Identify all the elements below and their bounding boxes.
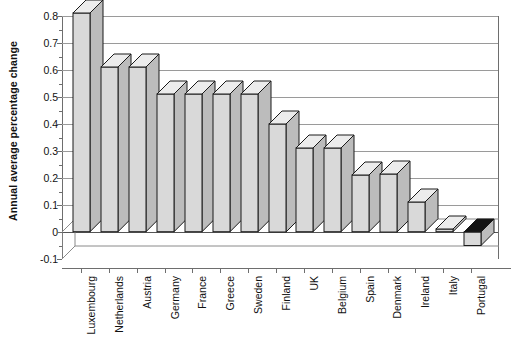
x-axis-label: France <box>195 276 209 346</box>
y-tick-mark-minor <box>59 111 62 112</box>
y-tick-mark-minor <box>59 138 62 139</box>
x-axis-label: Italy <box>446 276 460 346</box>
x-axis-label: Portugal <box>474 276 488 346</box>
y-tick-mark-minor <box>59 219 62 220</box>
y-tick-label: 0.2 <box>24 173 58 183</box>
x-axis-label-text: Austria <box>141 276 152 309</box>
x-axis-label-text: Germany <box>169 276 180 319</box>
bar <box>129 54 146 232</box>
y-tick-mark <box>57 70 62 71</box>
bar <box>464 219 481 246</box>
x-axis-label: Spain <box>363 276 377 346</box>
x-tick-mark <box>443 268 444 273</box>
x-axis-label: Greece <box>223 276 237 346</box>
x-axis-label-text: Belgium <box>336 276 347 314</box>
x-tick-mark <box>165 268 166 273</box>
x-axis-label-text: France <box>197 276 208 309</box>
x-tick-mark <box>388 268 389 273</box>
x-axis-label: Luxembourg <box>84 276 98 346</box>
x-tick-mark <box>332 268 333 273</box>
y-tick-mark <box>57 151 62 152</box>
x-axis-label: Finland <box>279 276 293 346</box>
x-tick-mark <box>304 268 305 273</box>
x-tick-mark <box>471 268 472 273</box>
y-tick-label: 0.5 <box>24 92 58 102</box>
x-axis-label-text: Portugal <box>476 276 487 315</box>
x-tick-mark <box>360 268 361 273</box>
y-axis-title-text: Annual average percentage change <box>7 41 19 221</box>
x-axis-label: Denmark <box>390 276 404 346</box>
bar <box>73 0 90 232</box>
x-axis-label-text: UK <box>308 276 319 291</box>
y-tick-mark <box>57 97 62 98</box>
y-tick-mark-minor <box>59 84 62 85</box>
y-tick-label: 0.7 <box>24 38 58 48</box>
bar-series <box>62 16 499 259</box>
y-tick-label: 0.8 <box>24 11 58 21</box>
y-tick-mark-minor <box>59 165 62 166</box>
bar <box>296 135 313 232</box>
y-tick-mark <box>57 259 62 260</box>
y-tick-mark <box>57 43 62 44</box>
y-tick-label: 0.4 <box>24 119 58 129</box>
x-axis-label: UK <box>307 276 321 346</box>
x-tick-mark <box>415 268 416 273</box>
y-tick-mark <box>57 205 62 206</box>
x-axis-label-text: Denmark <box>392 276 403 319</box>
y-tick-label: 0 <box>24 227 58 237</box>
x-axis-label: Netherlands <box>112 276 126 346</box>
x-axis-label-text: Finland <box>281 276 292 310</box>
y-tick-mark-minor <box>59 246 62 247</box>
y-tick-mark <box>57 16 62 17</box>
y-tick-mark <box>57 124 62 125</box>
x-tick-mark <box>81 268 82 273</box>
x-tick-mark <box>192 268 193 273</box>
bar <box>213 81 230 232</box>
x-axis-label-text: Ireland <box>420 276 431 308</box>
x-tick-mark <box>220 268 221 273</box>
y-axis-tick-labels: 0.80.70.60.50.40.30.20.10-0.1 <box>20 0 58 349</box>
x-axis-label: Sweden <box>251 276 265 346</box>
y-tick-mark <box>57 232 62 233</box>
bar-chart: Annual average percentage change 0.80.70… <box>0 0 511 349</box>
bar <box>436 216 453 232</box>
y-tick-mark-minor <box>59 30 62 31</box>
bar <box>324 135 341 232</box>
y-tick-label: 0.1 <box>24 200 58 210</box>
x-axis-label: Ireland <box>418 276 432 346</box>
x-tick-mark <box>248 268 249 273</box>
bar <box>269 111 286 232</box>
y-tick-mark-minor <box>59 57 62 58</box>
x-axis-label-text: Greece <box>225 276 236 310</box>
y-tick-label: -0.1 <box>24 254 58 264</box>
bar <box>352 162 369 232</box>
x-axis-label-text: Italy <box>448 276 459 295</box>
bar <box>157 81 174 232</box>
y-tick-label: 0.6 <box>24 65 58 75</box>
y-tick-label: 0.3 <box>24 146 58 156</box>
x-axis-label-text: Netherlands <box>113 276 124 333</box>
y-tick-mark <box>57 178 62 179</box>
x-axis-label: Belgium <box>335 276 349 346</box>
bar <box>185 81 202 232</box>
x-axis-label-text: Sweden <box>253 276 264 314</box>
x-axis-label-text: Spain <box>364 276 375 303</box>
bar <box>241 81 258 232</box>
x-tick-mark <box>109 268 110 273</box>
x-tick-mark <box>276 268 277 273</box>
x-axis-label: Germany <box>168 276 182 346</box>
plot-area <box>62 16 499 259</box>
x-axis-label: Austria <box>140 276 154 346</box>
bar-side-face <box>464 219 496 248</box>
bar <box>408 189 425 232</box>
bar <box>380 161 397 232</box>
y-tick-mark-minor <box>59 192 62 193</box>
x-axis-label-text: Luxembourg <box>85 276 96 334</box>
bar <box>101 54 118 232</box>
x-tick-mark <box>137 268 138 273</box>
